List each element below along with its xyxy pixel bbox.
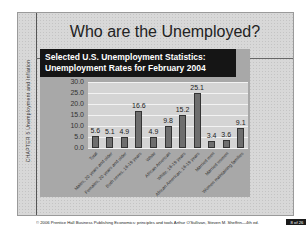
bar-value-label: 4.9 [143,128,163,135]
bar-value-label: 4.9 [114,128,134,135]
y-tick-label: 30.0 [52,78,84,85]
chart-title-line2: Unemployment Rates for February 2004 [45,63,231,74]
bar [237,128,244,148]
y-tick-label: 20.0 [52,100,84,107]
y-tick-label: 15.0 [52,111,84,118]
bar-value-label: 9.8 [158,117,178,124]
y-tick-label: 5.0 [52,133,84,140]
bar [179,115,186,148]
bar-value-label: 25.1 [187,84,207,91]
chart-title: Selected U.S. Unemployment Statistics: U… [40,49,236,77]
bar [121,137,128,148]
bar [135,111,142,148]
y-tick-label: 10.0 [52,122,84,129]
chart-title-line1: Selected U.S. Unemployment Statistics: [45,52,231,63]
slide-title: Who are the Unemployed? [37,23,293,41]
bar [106,137,113,148]
bar-value-label: 15.2 [173,106,193,113]
page-indicator: 8 of 26 [286,219,306,225]
bar-value-label: 16.6 [129,102,149,109]
bar [165,126,172,148]
gridline [88,148,248,149]
bar [208,141,215,148]
bar-value-label: 9.1 [231,119,251,126]
bar [92,136,99,148]
plot-area: 5.65.14.916.64.99.815.225.13.43.69.1 [88,82,248,148]
gridline [88,93,248,94]
gridline [88,104,248,105]
sidebar-divider [36,13,37,215]
gridline [88,82,248,83]
footer-credits: © 2006 Prentice Hall Business Publishing… [36,219,289,225]
bar [194,93,201,148]
y-tick-label: 0.0 [52,144,84,151]
gridline [88,115,248,116]
chapter-label: CHAPTER 5 Unemployment and Inflation [25,44,31,179]
bar-value-label: 3.6 [216,131,236,138]
bar [150,137,157,148]
bar [223,140,230,148]
y-tick-label: 25.0 [52,89,84,96]
